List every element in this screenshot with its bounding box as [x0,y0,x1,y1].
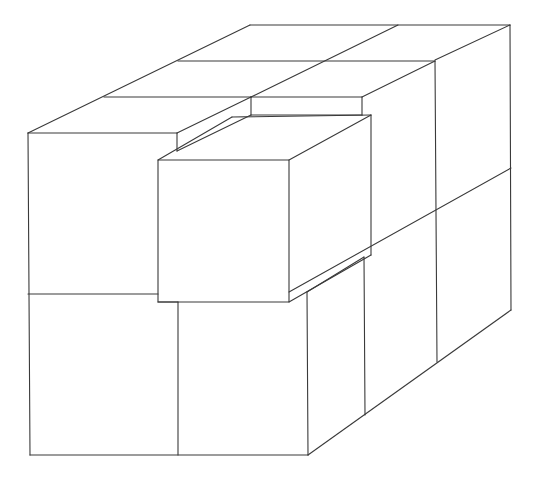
cube-drawing [0,0,537,480]
front-face [28,133,308,455]
cube-diagram [0,0,537,480]
displaced-cube [158,115,371,302]
recess [177,61,435,151]
right-face [289,25,511,455]
